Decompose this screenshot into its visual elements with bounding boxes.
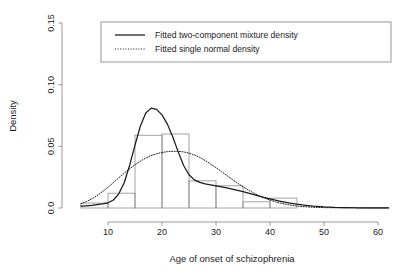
x-axis-title: Age of onset of schizophrenia	[169, 253, 295, 264]
y-axis-tick-label: 0.15	[46, 14, 56, 32]
legend-label: Fitted two-component mixture density	[155, 30, 299, 40]
x-axis-tick-label: 30	[211, 227, 221, 237]
y-axis-tick-label: 0.0	[46, 202, 56, 215]
x-axis-tick-label: 60	[373, 227, 383, 237]
y-axis-title: Density	[7, 100, 18, 132]
legend-box	[101, 22, 391, 62]
x-axis-tick-label: 20	[157, 227, 167, 237]
chart-root: 0.00.050.100.15 102030405060 Density Age…	[0, 0, 403, 278]
legend-label: Fitted single normal density	[155, 44, 260, 54]
y-axis-tick-label: 0.05	[46, 138, 56, 156]
x-axis-tick-label: 50	[319, 227, 329, 237]
x-axis-tick-label: 40	[265, 227, 275, 237]
density-histogram-chart: 0.00.050.100.15 102030405060 Density Age…	[0, 0, 403, 278]
y-axis-tick-label: 0.10	[46, 76, 56, 94]
x-axis-tick-label: 10	[103, 227, 113, 237]
chart-legend: Fitted two-component mixture densityFitt…	[101, 22, 391, 62]
